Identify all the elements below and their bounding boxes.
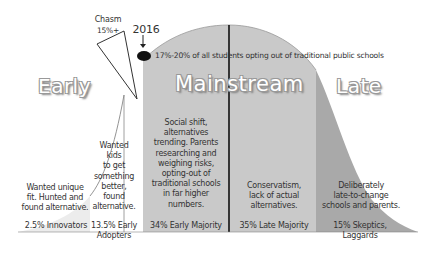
laggards-description: Deliberately late-to-change schools and … (316, 181, 406, 212)
desc-line: better, (90, 182, 138, 192)
label-line: Adopters (86, 231, 142, 241)
desc-line: alternatives (143, 128, 229, 138)
chasm-wedge (97, 31, 137, 99)
chasm-value: 15%+ (88, 26, 128, 36)
marker-year: 2016 (131, 24, 161, 36)
label-early-majority: 34% Early Majority (143, 221, 229, 231)
desc-line: schools and parents. (316, 201, 406, 211)
desc-line: to get (90, 161, 138, 171)
early-adopters-description: Wanted kids to get something better, fou… (90, 141, 138, 212)
phase-mainstream: Mainstream (175, 72, 304, 96)
label-innovators: 2.5% Innovators (16, 221, 96, 231)
desc-line: fit. Hunted and (18, 193, 92, 203)
label-line: 15% Skeptics, (320, 221, 400, 231)
phase-early: Early (38, 74, 91, 98)
innovators-description: Wanted unique fit. Hunted and found alte… (18, 183, 92, 214)
desc-line: found (90, 192, 138, 202)
desc-line: late-to-change (316, 191, 406, 201)
desc-line: traditional schools (143, 179, 229, 189)
desc-line: trending. Parents (143, 138, 229, 148)
label-early-adopters: 13.5% Early Adopters (86, 221, 142, 241)
label-line: 13.5% Early (86, 221, 142, 231)
label-laggards: 15% Skeptics, Laggards (320, 221, 400, 241)
desc-line: Wanted unique (18, 183, 92, 193)
phase-late: Late (336, 74, 382, 98)
marker-dot (137, 51, 151, 61)
desc-line: Deliberately (316, 181, 406, 191)
early-majority-description: Social shift, alternatives trending. Par… (143, 118, 229, 210)
desc-line: alternative. (90, 202, 138, 212)
marker-note: 17%-20% of all students opting out of tr… (155, 51, 435, 61)
label-late-majority: 35% Late Majority (231, 221, 317, 231)
desc-line: kids (90, 151, 138, 161)
desc-line: found alternative. (18, 203, 92, 213)
desc-line: something (90, 172, 138, 182)
desc-line: researching and (143, 149, 229, 159)
desc-line: in far higher (143, 189, 229, 199)
desc-line: weighing risks, (143, 159, 229, 169)
desc-line: lack of actual (231, 191, 317, 201)
desc-line: alternatives. (231, 201, 317, 211)
desc-line: Wanted (90, 141, 138, 151)
desc-line: numbers. (143, 200, 229, 210)
chasm-title: Chasm (88, 15, 128, 25)
label-line: Laggards (320, 231, 400, 241)
arrow-head (140, 44, 146, 48)
desc-line: Conservatism, (231, 181, 317, 191)
late-majority-description: Conservatism, lack of actual alternative… (231, 181, 317, 212)
desc-line: Social shift, (143, 118, 229, 128)
desc-line: opting-out of (143, 169, 229, 179)
